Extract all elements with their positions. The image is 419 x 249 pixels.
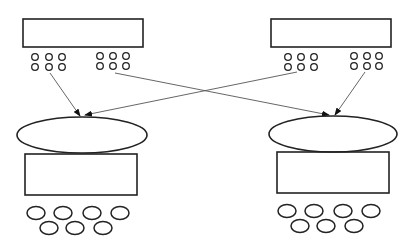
top-node-top-left bbox=[23, 19, 143, 70]
target-ellipse bbox=[269, 116, 397, 152]
small-dot bbox=[351, 53, 358, 60]
dot-group-1 bbox=[285, 54, 318, 71]
large-circle bbox=[345, 220, 363, 233]
small-dot bbox=[59, 64, 66, 71]
small-dot bbox=[97, 53, 104, 60]
small-dot bbox=[311, 54, 318, 61]
large-circle bbox=[278, 205, 296, 218]
top-node-top-right bbox=[271, 19, 391, 70]
small-dot bbox=[298, 64, 305, 71]
circle-row-2 bbox=[291, 220, 363, 233]
small-dot bbox=[110, 53, 117, 60]
small-dot bbox=[364, 63, 371, 70]
small-dot bbox=[298, 54, 305, 61]
large-circle bbox=[291, 220, 309, 233]
large-circle bbox=[317, 220, 335, 233]
circle-row-1 bbox=[278, 205, 380, 218]
connector-arrow-3 bbox=[85, 72, 297, 115]
target-box bbox=[25, 154, 137, 195]
small-dot bbox=[364, 53, 371, 60]
target-box bbox=[277, 152, 389, 193]
large-circle bbox=[54, 207, 72, 220]
large-circle bbox=[66, 222, 84, 235]
arrows-layer bbox=[50, 72, 365, 116]
large-circle bbox=[334, 205, 352, 218]
small-dot bbox=[32, 54, 39, 61]
bottom-nodes-layer bbox=[17, 116, 397, 235]
small-dot bbox=[123, 53, 130, 60]
connector-arrow-4 bbox=[335, 72, 365, 115]
source-box bbox=[271, 19, 391, 47]
dot-group-1 bbox=[32, 54, 66, 71]
large-circle bbox=[40, 222, 58, 235]
small-dot bbox=[59, 54, 66, 61]
dot-group-2 bbox=[351, 53, 383, 70]
small-dot bbox=[311, 64, 318, 71]
small-dot bbox=[123, 63, 130, 70]
dot-group-2 bbox=[97, 53, 130, 70]
small-dot bbox=[376, 63, 383, 70]
large-circle bbox=[94, 222, 112, 235]
small-dot bbox=[46, 64, 53, 71]
large-circle bbox=[27, 207, 45, 220]
large-circle bbox=[362, 205, 380, 218]
target-ellipse bbox=[17, 117, 147, 153]
large-circle bbox=[83, 207, 101, 220]
small-dot bbox=[285, 64, 292, 71]
bottom-node-bottom-left bbox=[17, 117, 147, 235]
connector-arrow-1 bbox=[50, 73, 80, 116]
circle-row-2 bbox=[40, 222, 112, 235]
small-dot bbox=[46, 54, 53, 61]
circle-row-1 bbox=[27, 207, 129, 220]
small-dot bbox=[110, 63, 117, 70]
small-dot bbox=[32, 64, 39, 71]
top-nodes-layer bbox=[23, 19, 391, 70]
diagram-canvas bbox=[0, 0, 419, 249]
small-dot bbox=[351, 63, 358, 70]
large-circle bbox=[305, 205, 323, 218]
small-dot bbox=[97, 63, 104, 70]
source-box bbox=[23, 19, 143, 47]
small-dot bbox=[376, 53, 383, 60]
connector-arrow-2 bbox=[115, 73, 329, 115]
bottom-node-bottom-right bbox=[269, 116, 397, 233]
large-circle bbox=[111, 207, 129, 220]
small-dot bbox=[285, 54, 292, 61]
